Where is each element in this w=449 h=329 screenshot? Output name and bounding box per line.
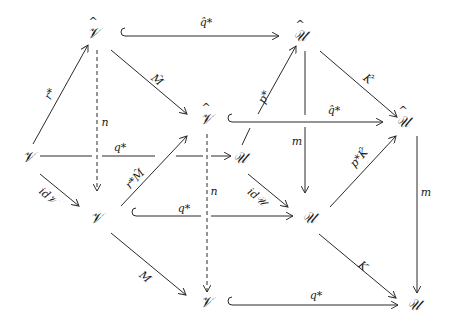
label-m-mid: m — [292, 135, 302, 148]
node-u-bottom: 𝒰 — [407, 296, 421, 314]
node-v-bottom: 𝒱 — [200, 293, 212, 311]
label-n-mid: n — [210, 185, 217, 198]
label-m-right: m — [421, 186, 431, 199]
node-uhat-right: 𝒰 — [396, 113, 410, 131]
node-u-lower: 𝒰 — [302, 209, 316, 227]
label-q-star-lower: q* — [178, 202, 191, 215]
label-qhat-star-mid: q̂* — [328, 104, 341, 117]
commutative-diagram — [0, 0, 449, 329]
edge-vhat-mid-to-uhat-right — [228, 114, 383, 122]
node-u-mid: 𝒰 — [233, 149, 247, 167]
edge-vhat-top-to-uhat-top — [121, 28, 279, 36]
label-n-left: n — [101, 116, 108, 129]
node-v-left: 𝒱 — [22, 148, 34, 166]
edge-v-lower-to-vhat-mid — [121, 136, 187, 206]
edge-v-lower-to-v-bottom — [111, 233, 186, 295]
node-vhat-top: 𝒱 — [87, 24, 99, 42]
label-q-star-bottom: q* — [310, 289, 323, 302]
node-uhat-top: 𝒰 — [293, 27, 307, 45]
node-vhat-mid: 𝒱 — [200, 110, 212, 128]
label-qhat-star-top: q̂* — [200, 16, 213, 29]
node-v-lower: 𝒱 — [90, 209, 102, 227]
label-q-star-mid: q* — [114, 141, 127, 154]
edge-v-lower-to-u-lower — [132, 208, 293, 216]
